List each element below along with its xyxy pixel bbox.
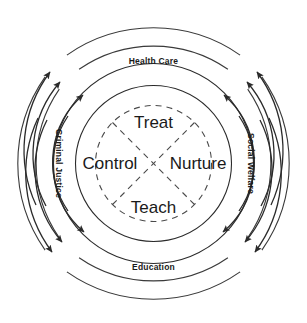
core-label-control: Control xyxy=(83,154,138,173)
domain-label-criminal-justice: Criminal Justice xyxy=(54,129,64,198)
domain-label-education: Education xyxy=(132,262,175,272)
core-label-treat: Treat xyxy=(134,113,173,132)
concentric-domain-diagram: Treat Control Nurture Teach Health Care … xyxy=(0,0,307,323)
core-label-teach: Teach xyxy=(131,198,176,217)
domain-label-health-care: Health Care xyxy=(129,56,179,66)
diagram-root: Treat Control Nurture Teach Health Care … xyxy=(0,0,307,323)
domain-label-social-welfare: Social Welfare xyxy=(246,133,256,194)
core-label-nurture: Nurture xyxy=(170,154,227,173)
